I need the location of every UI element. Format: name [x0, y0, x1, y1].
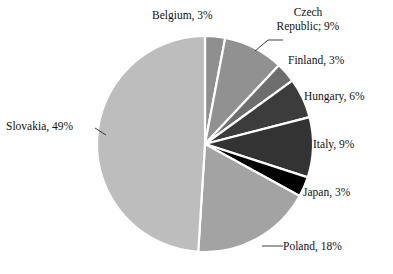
pie-label-finland: Finland, 3%	[288, 54, 344, 67]
pie-label-italy: Italy, 9%	[313, 138, 354, 151]
pie-label-slovakia-text: Slovakia, 49%	[6, 120, 73, 132]
pie-label-slovakia: Slovakia, 49%	[6, 120, 73, 133]
pie-label-poland-text: Poland, 18%	[283, 240, 342, 252]
pie-label-belgium: Belgium, 3%	[152, 9, 213, 22]
pie-label-belgium-text: Belgium, 3%	[152, 9, 213, 21]
pie-label-czech-republic-line2: Republic; 9%	[262, 20, 354, 34]
pie-label-japan-text: Japan, 3%	[303, 186, 350, 198]
pie-label-czech-republic-line1: Czech	[262, 6, 354, 20]
pie-label-italy-text: Italy, 9%	[313, 138, 354, 150]
pie-label-japan: Japan, 3%	[303, 186, 350, 199]
pie-label-hungary-text: Hungary, 6%	[304, 90, 365, 102]
pie-chart: Belgium, 3% Czech Republic; 9% Finland, …	[0, 0, 393, 274]
pie-label-finland-text: Finland, 3%	[288, 54, 344, 66]
pie-label-poland: Poland, 18%	[283, 240, 342, 253]
pie-slices-group	[97, 36, 313, 252]
pie-label-czech-republic: Czech Republic; 9%	[262, 6, 354, 33]
pie-chart-canvas	[0, 0, 393, 274]
pie-label-hungary: Hungary, 6%	[304, 90, 365, 103]
pie-slice-slovakia	[97, 36, 205, 252]
